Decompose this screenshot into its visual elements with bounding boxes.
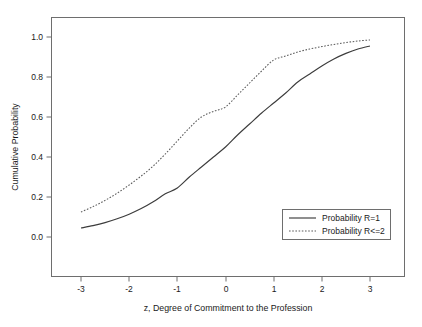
x-tick-label: 1	[272, 284, 277, 294]
y-axis-title: Cumulative Probability	[10, 103, 20, 191]
legend: Probability R=1 Probability R<=2	[283, 210, 391, 240]
y-tick-label: 1.0	[31, 32, 43, 42]
y-tick-label: 0.8	[31, 72, 43, 82]
x-tick-label: 2	[320, 284, 325, 294]
legend-label-0: Probability R=1	[322, 213, 380, 223]
x-tick-label: -3	[77, 284, 85, 294]
cumulative-probability-chart: 1.0 0.8 0.6 0.4 0.2 0.0 -3 -2 -1 0 1 2 3	[0, 0, 422, 327]
y-tick-label: 0.0	[31, 232, 43, 242]
legend-label-1: Probability R<=2	[322, 226, 385, 236]
y-tick-label: 0.2	[31, 192, 43, 202]
x-tick-label: -2	[125, 284, 133, 294]
plot-area: 1.0 0.8 0.6 0.4 0.2 0.0 -3 -2 -1 0 1 2 3	[0, 0, 422, 327]
y-tick-label: 0.4	[31, 152, 43, 162]
x-tick-label: 3	[368, 284, 373, 294]
x-tick-label: -1	[173, 284, 181, 294]
x-tick-label: 0	[224, 284, 229, 294]
y-tick-label: 0.6	[31, 112, 43, 122]
x-axis-title: z, Degree of Commitment to the Professio…	[144, 303, 313, 313]
